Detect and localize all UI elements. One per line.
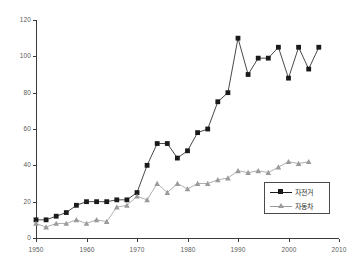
data-point-triangle [154, 181, 160, 186]
data-point-square [44, 217, 49, 222]
data-point-square [114, 197, 119, 202]
data-point-square [155, 141, 160, 146]
data-point-square [104, 199, 109, 204]
legend-marker-square-icon [270, 188, 292, 196]
data-point-square [54, 214, 59, 219]
data-point-square [84, 199, 89, 204]
data-point-triangle [306, 159, 312, 164]
data-point-square [256, 56, 261, 61]
data-point-triangle [84, 221, 90, 226]
legend-entry-bicycle: 자전거 [270, 188, 313, 196]
data-point-triangle [255, 168, 261, 173]
data-point-triangle [276, 164, 282, 169]
data-point-square [276, 45, 281, 50]
data-point-triangle [185, 186, 191, 191]
data-point-square [215, 99, 220, 104]
data-point-square [246, 72, 251, 77]
data-point-triangle [74, 217, 80, 222]
data-point-square [316, 45, 321, 50]
data-point-triangle [43, 224, 49, 229]
legend: 자전거 자동차 [264, 182, 330, 214]
data-point-triangle [235, 168, 241, 173]
data-point-square [306, 67, 311, 72]
data-point-square [185, 148, 190, 153]
data-point-square [64, 210, 69, 215]
data-point-triangle [225, 175, 231, 180]
data-point-square [175, 156, 180, 161]
legend-marker-triangle-icon [270, 202, 292, 210]
data-point-square [125, 197, 130, 202]
data-point-square [165, 141, 170, 146]
data-point-square [296, 45, 301, 50]
data-point-square [266, 56, 271, 61]
data-point-square [205, 127, 210, 132]
legend-label-bicycle: 자전거 [295, 189, 313, 196]
data-point-square [286, 76, 291, 81]
legend-label-automobile: 자동차 [295, 203, 313, 210]
data-point-square [195, 130, 200, 135]
data-point-square [236, 36, 241, 41]
data-point-square [226, 90, 231, 95]
data-point-triangle [144, 197, 150, 202]
data-point-triangle [175, 181, 181, 186]
data-point-triangle [286, 159, 292, 164]
data-point-square [145, 163, 150, 168]
legend-entry-automobile: 자동차 [270, 202, 313, 210]
data-point-square [74, 203, 79, 208]
data-point-triangle [94, 217, 100, 222]
data-point-square [94, 199, 99, 204]
